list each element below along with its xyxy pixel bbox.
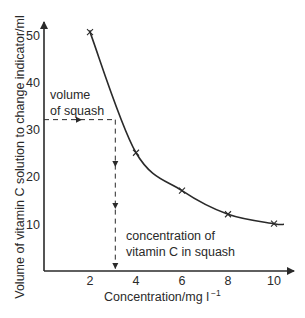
- x-tick-labels: 246810: [87, 274, 281, 288]
- arrow-down-icon: [112, 203, 118, 209]
- annotations: volumeof squashconcentration ofvitamin C…: [50, 88, 235, 259]
- y-axis-label: Volume of vitamin C solution to change i…: [13, 15, 27, 298]
- x-tick-label: 10: [267, 274, 281, 288]
- x-tick-label: 4: [133, 274, 140, 288]
- x-marker-icon: [133, 150, 139, 156]
- y-tick-label: 10: [26, 218, 40, 232]
- annotation-text: volume: [50, 88, 90, 102]
- y-tick-label: 20: [26, 170, 40, 184]
- y-tick-label: 50: [26, 29, 40, 43]
- x-marker-icon: [179, 188, 185, 194]
- annotation-text: vitamin C in squash: [126, 245, 235, 259]
- arrow-down-icon: [112, 263, 118, 269]
- annotation-text: concentration of: [126, 229, 215, 243]
- chart: 1020304050 246810 volumeof squashconcent…: [0, 0, 305, 318]
- calibration-curve: [90, 30, 284, 224]
- reading-guide-lines: [44, 117, 118, 271]
- data-point-markers: [87, 29, 277, 227]
- x-axis-label: Concentration/mg l−1: [104, 288, 221, 304]
- x-tick-label: 8: [225, 274, 232, 288]
- x-tick-label: 2: [87, 274, 94, 288]
- y-tick-label: 40: [26, 76, 40, 90]
- annotation-text: of squash: [50, 104, 104, 118]
- x-tick-label: 6: [179, 274, 186, 288]
- y-tick-labels: 1020304050: [26, 29, 40, 232]
- y-tick-label: 30: [26, 123, 40, 137]
- arrow-down-icon: [112, 161, 118, 167]
